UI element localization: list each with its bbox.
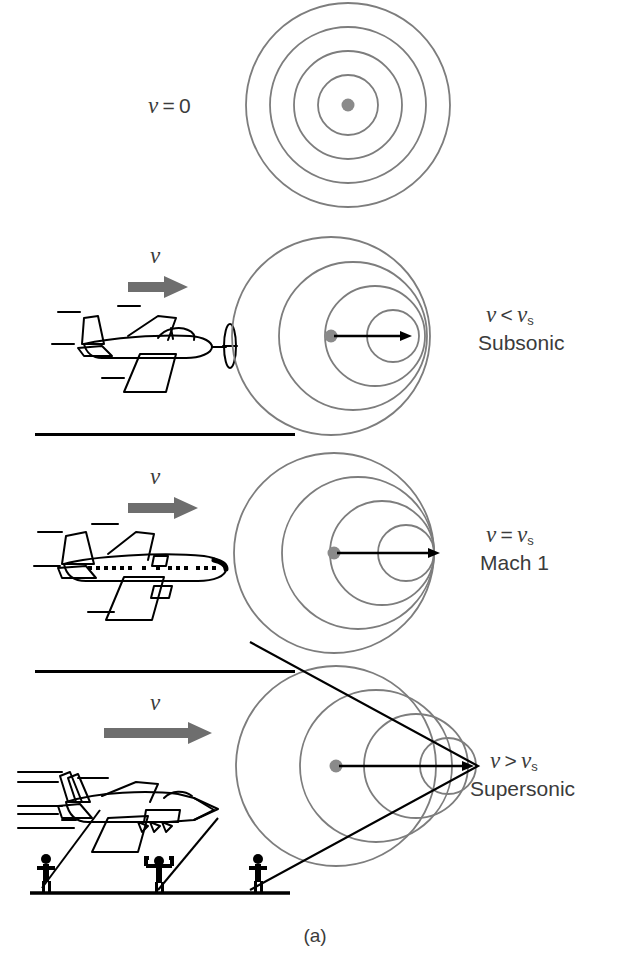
arrow-glyph bbox=[128, 276, 188, 298]
sound-speed-subscript: s bbox=[531, 759, 538, 774]
velocity-symbol: v bbox=[490, 748, 500, 773]
sound-speed-symbol: v bbox=[517, 522, 527, 547]
velocity-symbol: v bbox=[148, 93, 158, 118]
sonic-boom-figure: v=0 v bbox=[0, 0, 630, 974]
panel-divider bbox=[35, 433, 295, 436]
subsonic-arrow-label: v bbox=[150, 243, 160, 269]
motion-arrow bbox=[334, 331, 412, 341]
mach1-wavefronts bbox=[224, 448, 494, 663]
relation-operator: > bbox=[500, 749, 520, 772]
observer-figure-covering-ears bbox=[144, 856, 174, 893]
mach1-arrow-label: v bbox=[150, 464, 160, 490]
supersonic-wavefronts bbox=[226, 660, 516, 875]
relation-operator: = bbox=[158, 94, 178, 117]
sound-speed-subscript: s bbox=[527, 313, 534, 328]
main-wing bbox=[124, 354, 176, 392]
mach1-condition-name: Mach 1 bbox=[480, 551, 549, 575]
velocity-value: 0 bbox=[179, 94, 191, 117]
supersonic-condition-name: Supersonic bbox=[470, 777, 575, 801]
supersonic-arrow-label: v bbox=[150, 690, 160, 716]
sound-speed-symbol: v bbox=[521, 748, 531, 773]
engine-upper bbox=[152, 556, 168, 566]
arrow-glyph bbox=[104, 722, 212, 744]
subsonic-velocity-arrow bbox=[128, 274, 190, 300]
motion-arrow bbox=[337, 548, 440, 558]
subsonic-wavefronts bbox=[222, 232, 482, 447]
velocity-symbol: v bbox=[486, 522, 496, 547]
subsonic-condition-name: Subsonic bbox=[478, 331, 564, 355]
stationary-wavefronts bbox=[240, 0, 470, 225]
subsonic-condition-label: v<vs bbox=[486, 302, 534, 328]
stationary-velocity-label: v=0 bbox=[148, 93, 191, 119]
tail-fin bbox=[82, 316, 104, 344]
observer-figure bbox=[37, 854, 55, 893]
relation-operator: < bbox=[496, 303, 516, 326]
source-dot bbox=[342, 99, 355, 112]
supersonic-velocity-arrow bbox=[104, 720, 214, 746]
figure-caption: (a) bbox=[0, 925, 630, 947]
mach1-condition-label: v=vs bbox=[486, 522, 534, 548]
velocity-symbol: v bbox=[486, 302, 496, 327]
sound-speed-symbol: v bbox=[517, 302, 527, 327]
motion-arrow bbox=[339, 761, 474, 771]
canopy bbox=[158, 328, 194, 340]
horizontal-stabilizer bbox=[78, 346, 112, 356]
relation-operator: = bbox=[496, 523, 516, 546]
supersonic-condition-label: v>vs bbox=[490, 748, 538, 774]
sound-speed-subscript: s bbox=[527, 533, 534, 548]
